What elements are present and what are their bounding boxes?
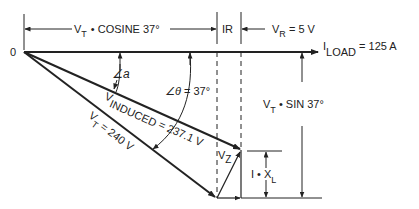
origin-label: 0 — [10, 46, 16, 58]
v-z-label: VZ — [218, 149, 231, 165]
phasor-diagram: 0 VT• COSINE 37° IR VR = 5 V ILOAD = 125… — [0, 0, 419, 209]
ixl-label: I • XL — [251, 168, 276, 185]
angle-a-label: ∠a — [112, 67, 130, 81]
cosine-label: VT• COSINE 37° — [74, 23, 160, 39]
vr-label: VR = 5 V — [272, 23, 316, 39]
angle-a-arrow-lower — [114, 80, 117, 89]
ir-label: IR — [222, 23, 233, 35]
sine-label: VT • SIN 37° — [263, 98, 324, 115]
angle-theta-label: ∠θ = 37° — [165, 85, 210, 97]
i-load-label: ILOAD = 125 A — [323, 40, 397, 58]
